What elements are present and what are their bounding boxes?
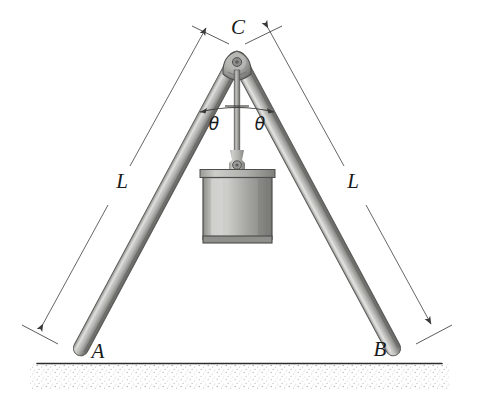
ground-stipple — [30, 364, 450, 390]
theta-label-left: θ — [209, 114, 220, 134]
right-dim-ext-bottom — [416, 325, 452, 344]
left-dim-ext-bottom — [22, 325, 58, 344]
ground — [30, 364, 450, 391]
theta-label-right: θ — [255, 114, 266, 134]
point-label-c: C — [231, 15, 246, 39]
right-dimension: L — [245, 26, 452, 344]
point-label-a: A — [90, 339, 105, 363]
left-dim-ext-top — [192, 26, 229, 44]
left-dimension: L — [22, 26, 229, 344]
length-label-right: L — [346, 169, 359, 193]
weight-cap — [200, 170, 275, 178]
weight-base-rim — [203, 236, 272, 243]
figure-canvas: θ θ L L C A B — [0, 0, 480, 399]
suspension-rod — [229, 70, 245, 170]
suspended-weight — [200, 170, 275, 244]
right-dim-ext-top — [245, 26, 282, 44]
a-frame-diagram: θ θ L L C A B — [0, 0, 480, 399]
point-label-b: B — [374, 337, 387, 361]
length-label-left: L — [115, 169, 128, 193]
